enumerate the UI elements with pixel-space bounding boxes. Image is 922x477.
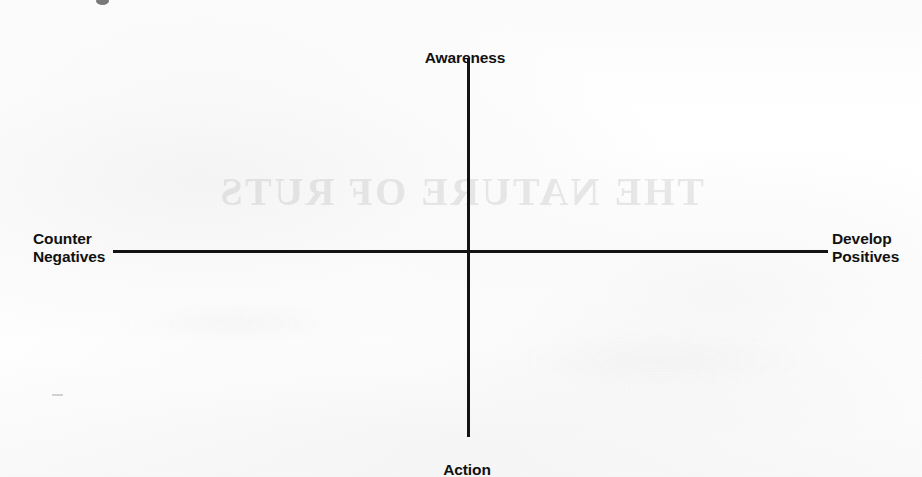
horizontal-axis-line <box>113 250 828 253</box>
axis-label-counter-negatives: Counter Negatives <box>33 230 105 265</box>
vertical-axis-line <box>467 58 470 437</box>
axis-label-develop-positives: Develop Positives <box>832 230 899 265</box>
paper-grain-texture <box>0 0 922 477</box>
axis-label-awareness-text: Awareness <box>425 49 506 67</box>
axis-label-action: Action <box>0 443 922 477</box>
diagram-page: THE NATURE OF RUTS Awareness Action Coun… <box>0 0 922 477</box>
axis-label-action-text: Action <box>443 461 491 477</box>
axis-label-awareness: Awareness <box>0 31 922 66</box>
